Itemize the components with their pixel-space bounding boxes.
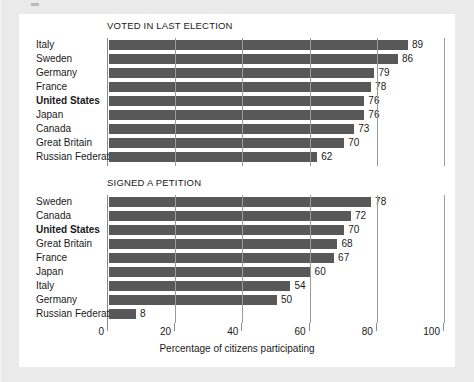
bar-row: Germany50: [108, 293, 444, 307]
x-axis-label: Percentage of citizens participating: [19, 343, 455, 354]
bar: [109, 211, 351, 221]
category-label: Canada: [36, 210, 104, 222]
bar: [109, 239, 337, 249]
category-label: Sweden: [36, 196, 104, 208]
bar-value-label: 8: [140, 308, 146, 320]
x-tick-label-0: 0: [98, 326, 107, 337]
bar-value-label: 54: [294, 280, 305, 292]
category-label: Great Britain: [36, 238, 104, 250]
bar-row: Canada72: [108, 209, 444, 223]
chart-panel: VOTED IN LAST ELECTION Italy89Sweden86Ge…: [19, 14, 455, 367]
category-label: Germany: [36, 294, 104, 306]
x-tick-label-100: 100: [423, 326, 443, 337]
bar-row: Japan60: [108, 265, 444, 279]
bar-row: Sweden86: [108, 52, 444, 66]
category-label: Italy: [36, 39, 104, 51]
category-label: Great Britain: [36, 137, 104, 149]
bar-row: France78: [108, 80, 444, 94]
bar-value-label: 67: [338, 252, 349, 264]
x-tick-60: [309, 323, 310, 331]
x-tick-0: [107, 323, 108, 331]
bar: [109, 253, 334, 263]
bar: [109, 197, 371, 207]
gridline-100: [444, 195, 445, 323]
bar-value-label: 60: [315, 266, 326, 278]
x-tick-label-40: 40: [227, 326, 241, 337]
category-label: Russian Federation: [36, 151, 104, 163]
bar: [109, 309, 136, 319]
bar-rows-voted: Italy89Sweden86Germany79France78United S…: [108, 38, 444, 166]
category-label: United States: [36, 95, 104, 107]
bar-row: United States70: [108, 223, 444, 237]
category-label: France: [36, 252, 104, 264]
bar-value-label: 76: [368, 95, 379, 107]
bar-row: Italy89: [108, 38, 444, 52]
category-label: Germany: [36, 67, 104, 79]
bar-value-label: 50: [281, 294, 292, 306]
bar-value-label: 70: [348, 137, 359, 149]
x-tick-80: [376, 323, 377, 331]
bar-value-label: 79: [378, 67, 389, 79]
bar-rows-petition: Sweden78Canada72United States70Great Bri…: [108, 195, 444, 323]
bar-row: Japan76: [108, 108, 444, 122]
bar-row: Russian Federation8: [108, 307, 444, 321]
gridline-20: [175, 38, 176, 166]
bar-row: Great Britain70: [108, 136, 444, 150]
x-tick-20: [174, 323, 175, 331]
gridline-80: [377, 38, 378, 166]
bar-row: Germany79: [108, 66, 444, 80]
bar-row: Italy54: [108, 279, 444, 293]
chart-petition-title: SIGNED A PETITION: [107, 177, 201, 188]
x-tick-label-20: 20: [160, 326, 174, 337]
gridline-100: [444, 38, 445, 166]
bar-value-label: 76: [368, 109, 379, 121]
bar-value-label: 86: [402, 53, 413, 65]
x-tick-40: [241, 323, 242, 331]
bar: [109, 295, 277, 305]
x-axis: 020406080100: [107, 323, 443, 341]
bar-row: Russian Federation62: [108, 150, 444, 164]
figure-root: VOTED IN LAST ELECTION Italy89Sweden86Ge…: [0, 0, 474, 382]
category-label: Japan: [36, 266, 104, 278]
bar-row: United States76: [108, 94, 444, 108]
gridline-40: [242, 38, 243, 166]
gridline-60: [310, 38, 311, 166]
bar: [109, 54, 398, 64]
gridline-80: [377, 195, 378, 323]
bar: [109, 96, 364, 106]
bar: [109, 152, 317, 162]
x-tick-label-60: 60: [294, 326, 308, 337]
bar-value-label: 62: [321, 151, 332, 163]
bar-value-label: 89: [412, 39, 423, 51]
gridline-40: [242, 195, 243, 323]
bar-value-label: 70: [348, 224, 359, 236]
bar-row: Great Britain68: [108, 237, 444, 251]
x-tick-100: [443, 323, 444, 331]
gridline-20: [175, 195, 176, 323]
bar-row: France67: [108, 251, 444, 265]
category-label: Sweden: [36, 53, 104, 65]
bar-row: Canada73: [108, 122, 444, 136]
bar: [109, 82, 371, 92]
bar-value-label: 72: [355, 210, 366, 222]
x-tick-label-80: 80: [362, 326, 376, 337]
category-label: Japan: [36, 109, 104, 121]
plot-area-petition: Sweden78Canada72United States70Great Bri…: [107, 195, 444, 323]
category-label: United States: [36, 224, 104, 236]
scan-artifact: [31, 3, 39, 6]
category-label: Canada: [36, 123, 104, 135]
category-label: Russian Federation: [36, 308, 104, 320]
gridline-60: [310, 195, 311, 323]
bar: [109, 40, 408, 50]
bar: [109, 267, 311, 277]
bar-row: Sweden78: [108, 195, 444, 209]
chart-voted-title: VOTED IN LAST ELECTION: [107, 20, 233, 31]
bar: [109, 110, 364, 120]
bar: [109, 281, 290, 291]
bar-value-label: 73: [358, 123, 369, 135]
chart-voted-in-last-election: VOTED IN LAST ELECTION Italy89Sweden86Ge…: [19, 20, 455, 170]
bar: [109, 124, 354, 134]
category-label: France: [36, 81, 104, 93]
bar-value-label: 68: [341, 238, 352, 250]
category-label: Italy: [36, 280, 104, 292]
